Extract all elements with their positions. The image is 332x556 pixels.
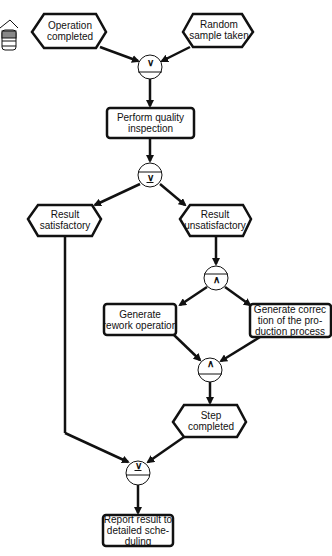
xor-join-connector: ∨ (130, 460, 146, 471)
event-operation-completed-label: Operation completed (40, 15, 100, 47)
and-join-connector: ∧ (202, 358, 218, 369)
function-perform-quality-inspection-label: Perform quality inspection (107, 108, 194, 138)
event-random-sample-taken-label: Random sample taken (188, 14, 250, 46)
event-result-unsatisfactory-label: Result unsatisfactory (180, 205, 250, 235)
event-result-satisfactory-label: Result satisfactory (34, 205, 96, 235)
database-icon (0, 20, 18, 50)
epc-diagram (0, 0, 332, 556)
event-step-completed-label: Step completed (180, 405, 242, 437)
and-split-connector: ∧ (208, 274, 224, 285)
function-generate-correction-label: Generate correc tion of the pro- duction… (248, 304, 332, 337)
xor-split-connector: ∨ (142, 172, 158, 183)
function-report-result-label: Report result to detailed sche- duling (101, 515, 175, 546)
function-generate-rework-label: Generate rework operation (102, 304, 178, 335)
or-connector-top: ∨ (142, 57, 158, 68)
